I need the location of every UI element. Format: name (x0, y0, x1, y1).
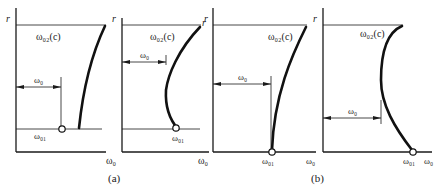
arrowhead-right-icon (373, 116, 381, 120)
panel-b1: ω₀₂(c) ω₀ ω₀₁ ω₀ (213, 8, 316, 166)
y-axis-label: r (6, 13, 10, 24)
y-axis-label: r (112, 13, 116, 24)
curve-label: ω₀₂(c) (150, 31, 175, 43)
arrowhead-left-icon (213, 82, 221, 86)
dimension-label: ω₀ (140, 50, 149, 60)
arrowhead-right-icon (53, 85, 61, 89)
velocity-curve (381, 26, 412, 150)
curve-label: ω₀₂(c) (268, 31, 293, 43)
arrowhead-left-icon (122, 60, 130, 64)
point-marker (59, 126, 65, 132)
y-axis-label-b1: r (204, 13, 208, 24)
x-axis-label: ω₀ (306, 156, 315, 166)
x-axis-label: ω₀ (106, 155, 117, 166)
point-marker (173, 125, 179, 131)
arrowhead-left-icon (16, 85, 24, 89)
panel-a1: r ω₀₂(c) ω₀ ω₀₁ ω₀ (6, 8, 117, 166)
panel-b2: r ω₀₂(c) ω₀ ω₀₁ ω₀ (313, 8, 433, 166)
velocity-curve (79, 26, 105, 128)
x-axis-label: ω₀ (198, 155, 209, 166)
point-label: ω₀₁ (172, 133, 184, 143)
dimension-label: ω₀ (238, 72, 247, 82)
point-marker (410, 149, 416, 155)
y-axis-label: r (313, 13, 317, 24)
dimension-label: ω₀ (348, 106, 357, 116)
x-axis-label: ω₀ (424, 156, 433, 166)
arrowhead-left-icon (323, 116, 331, 120)
velocity-curve (166, 27, 200, 129)
caption-a: (a) (108, 172, 121, 185)
point-label: ω₀₁ (262, 156, 274, 166)
panel-a2: r r ω₀₂(c) ω₀ ω₀₁ ω₀ (112, 13, 209, 166)
curve-label: ω₀₂(c) (36, 31, 61, 43)
arrowhead-right-icon (158, 60, 166, 64)
point-label: ω₀₁ (34, 131, 46, 141)
point-label: ω₀₁ (403, 156, 415, 166)
velocity-curve (272, 27, 306, 150)
point-marker (269, 149, 275, 155)
dimension-label: ω₀ (34, 75, 43, 85)
arrowhead-right-icon (263, 82, 271, 86)
figure-canvas: r ω₀₂(c) ω₀ ω₀₁ ω₀ r r ω₀₂(c) ω₀ ω₀₁ ω₀ … (0, 0, 437, 185)
caption-b: (b) (311, 172, 324, 185)
curve-label: ω₀₂(c) (360, 28, 385, 40)
